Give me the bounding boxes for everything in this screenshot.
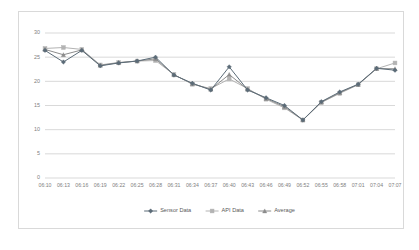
x-axis-tick-label: 06:49 <box>278 182 291 188</box>
x-axis-tick-label: 07:07 <box>389 182 402 188</box>
data-point-marker <box>210 209 214 213</box>
legend-item-sensor-data[interactable]: Sensor Data <box>144 207 192 213</box>
data-point-marker <box>148 209 152 213</box>
series-average <box>43 47 397 122</box>
x-axis-tick-label: 06:16 <box>75 182 88 188</box>
data-point-marker <box>227 72 231 76</box>
line-chart: 05101520253006:1006:1306:1606:1906:2206:… <box>19 12 403 228</box>
x-axis-labels: 06:1006:1306:1606:1906:2206:2506:2806:31… <box>39 182 402 188</box>
legend-label: API Data <box>222 207 245 213</box>
x-axis-tick-label: 06:46 <box>260 182 273 188</box>
y-axis-tick-label: 25 <box>34 54 40 60</box>
x-axis-tick-label: 06:19 <box>94 182 107 188</box>
y-axis-tick-label: 30 <box>34 29 40 35</box>
x-axis-tick-label: 06:28 <box>149 182 162 188</box>
x-axis-tick-label: 06:43 <box>241 182 254 188</box>
y-axis-tick-label: 0 <box>37 174 40 180</box>
series-line <box>45 50 395 120</box>
y-axis-tick-label: 20 <box>34 78 40 84</box>
x-axis-tick-label: 06:37 <box>204 182 217 188</box>
x-axis-tick-label: 06:40 <box>223 182 236 188</box>
legend-label: Sensor Data <box>160 207 192 213</box>
x-axis-tick-label: 06:22 <box>112 182 125 188</box>
legend-item-api-data[interactable]: API Data <box>206 207 245 213</box>
data-point-marker <box>393 61 397 65</box>
x-axis-tick-label: 07:01 <box>352 182 365 188</box>
y-axis-tick-label: 10 <box>34 126 40 132</box>
y-axis-tick-label: 15 <box>34 102 40 108</box>
legend-item-average[interactable]: Average <box>258 207 295 213</box>
x-axis-tick-label: 06:31 <box>167 182 180 188</box>
chart-legend: Sensor DataAPI DataAverage <box>144 207 295 213</box>
series-line <box>45 49 395 120</box>
x-axis-tick-label: 06:58 <box>333 182 346 188</box>
legend-label: Average <box>274 207 295 213</box>
series-sensor-data <box>43 48 397 122</box>
x-axis-tick-label: 07:04 <box>370 182 383 188</box>
chart-plot-area: 05101520253006:1006:1306:1606:1906:2206:… <box>19 12 403 228</box>
gridlines: 051015202530 <box>34 29 395 180</box>
data-point-marker <box>62 46 66 50</box>
y-axis-tick-label: 5 <box>37 150 40 156</box>
x-axis-tick-label: 06:13 <box>57 182 70 188</box>
x-axis-tick-label: 06:10 <box>39 182 52 188</box>
x-axis-tick-label: 06:25 <box>131 182 144 188</box>
chart-frame: 05101520253006:1006:1306:1606:1906:2206:… <box>18 11 404 229</box>
x-axis-tick-label: 06:55 <box>315 182 328 188</box>
x-axis-tick-label: 06:52 <box>296 182 309 188</box>
series-line <box>45 48 395 121</box>
data-point-marker <box>227 77 231 81</box>
x-axis-tick-label: 06:34 <box>186 182 199 188</box>
